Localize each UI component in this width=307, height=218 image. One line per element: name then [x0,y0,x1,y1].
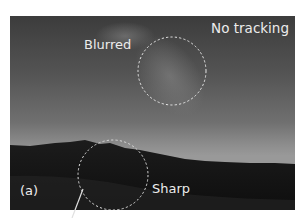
leader-line [0,0,307,218]
